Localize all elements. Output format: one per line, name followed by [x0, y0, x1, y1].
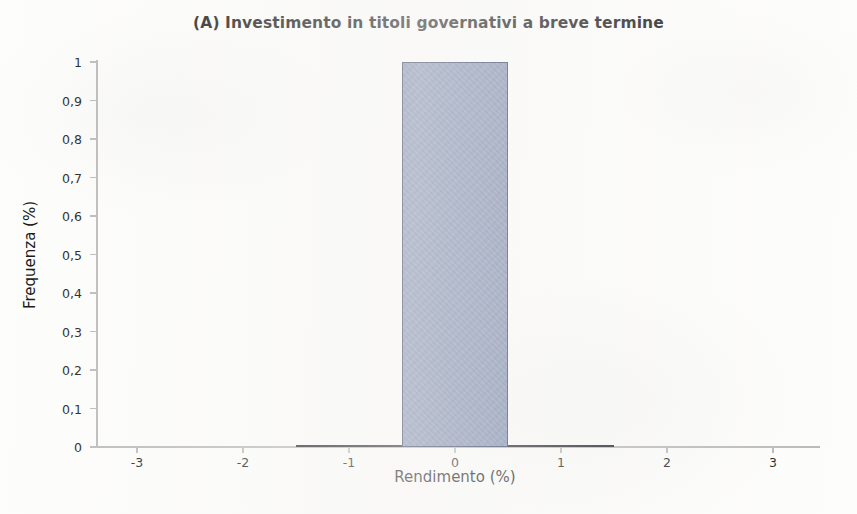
y-tick: 1: [90, 61, 96, 63]
y-tick-label: 0,4: [62, 286, 82, 301]
x-tick-label: 3: [769, 455, 777, 470]
histogram-bar: [508, 445, 614, 447]
x-tick: [454, 447, 456, 453]
y-tick: 0,6: [90, 215, 96, 217]
y-tick: 0,7: [90, 177, 96, 179]
x-tick: [136, 447, 138, 453]
y-tick-label: 0,9: [62, 93, 82, 108]
y-tick-label: 0,3: [62, 324, 82, 339]
x-tick-label: 2: [663, 455, 671, 470]
y-tick-label: 0: [74, 440, 82, 455]
y-tick-label: 0,8: [62, 132, 82, 147]
x-tick-label: -3: [131, 455, 143, 470]
histogram-bar: [402, 62, 508, 447]
y-tick-label: 0,5: [62, 247, 82, 262]
bar-texture: [403, 63, 507, 446]
x-tick: [348, 447, 350, 453]
y-tick: 0: [90, 446, 96, 448]
x-tick: [242, 447, 244, 453]
x-tick-label: -1: [343, 455, 355, 470]
x-tick: [666, 447, 668, 453]
y-tick: 0,8: [90, 138, 96, 140]
x-tick-label: 1: [557, 455, 565, 470]
y-axis-label: Frequenza (%): [21, 201, 39, 309]
chart-title: (A) Investimento in titoli governativi a…: [0, 14, 857, 32]
y-axis-line: [96, 60, 98, 448]
x-axis-label: Rendimento (%): [394, 468, 515, 486]
y-tick-label: 0,1: [62, 401, 82, 416]
y-tick-label: 0,2: [62, 363, 82, 378]
y-tick: 0,3: [90, 331, 96, 333]
y-tick: 0,5: [90, 254, 96, 256]
y-tick-label: 1: [74, 55, 82, 70]
y-tick: 0,9: [90, 100, 96, 102]
y-tick-label: 0,7: [62, 170, 82, 185]
histogram-chart: (A) Investimento in titoli governativi a…: [0, 0, 857, 514]
y-tick-label: 0,6: [62, 209, 82, 224]
x-tick: [560, 447, 562, 453]
y-tick: 0,1: [90, 408, 96, 410]
x-tick-label: -2: [237, 455, 249, 470]
y-tick: 0,4: [90, 292, 96, 294]
x-tick: [772, 447, 774, 453]
y-tick: 0,2: [90, 369, 96, 371]
histogram-bar: [296, 445, 402, 447]
